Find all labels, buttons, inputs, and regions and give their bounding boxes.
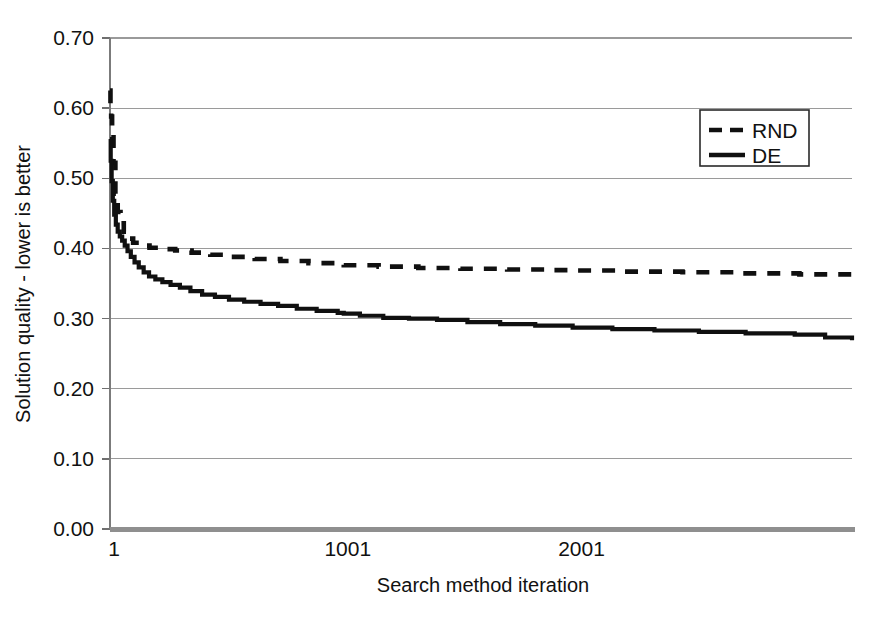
- y-tick-label: 0.10: [53, 447, 94, 470]
- y-tick-label: 0.30: [53, 307, 94, 330]
- y-tick-label: 0.20: [53, 377, 94, 400]
- legend: RND DE: [700, 110, 809, 167]
- y-tick-label: 0.40: [53, 236, 94, 259]
- x-tick-label: 1001: [324, 537, 371, 560]
- chart-figure: 0.000.100.200.300.400.500.600.70 1100120…: [0, 0, 882, 625]
- line-chart: 0.000.100.200.300.400.500.600.70 1100120…: [0, 0, 882, 625]
- y-tick-label: 0.60: [53, 96, 94, 119]
- y-axis-title: Solution quality - lower is better: [12, 145, 34, 423]
- legend-label-rnd: RND: [752, 119, 798, 142]
- x-axis-title: Search method iteration: [377, 574, 589, 596]
- y-tick-label: 0.50: [53, 166, 94, 189]
- x-tick-label: 2001: [558, 537, 605, 560]
- legend-label-de: DE: [752, 144, 781, 167]
- x-tick-label: 1: [108, 537, 120, 560]
- y-tick-label: 0.00: [53, 517, 94, 540]
- y-tick-label: 0.70: [53, 26, 94, 49]
